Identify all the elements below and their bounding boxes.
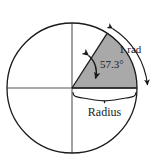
angle-label: 57.3° bbox=[100, 58, 124, 70]
radius-label: Radius bbox=[88, 105, 122, 119]
arc-label: 1 rad bbox=[119, 43, 142, 55]
radian-diagram-svg: 57.3° 1 rad Radius bbox=[0, 0, 159, 163]
radian-diagram-figure: 57.3° 1 rad Radius bbox=[0, 0, 159, 163]
